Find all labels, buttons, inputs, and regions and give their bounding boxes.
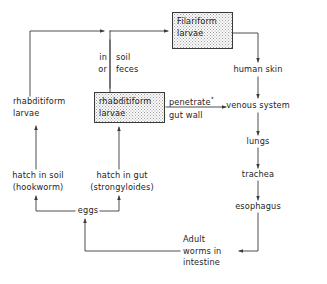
node-rhabditiform-larvae-boxed: rhabditiform larvae xyxy=(94,92,165,123)
edge-label-penetrate: penetrate* xyxy=(169,93,214,108)
edge-label-gut-wall: gut wall xyxy=(169,110,203,122)
node-adult-worms-in-intestine: Adult worms in intestine xyxy=(183,234,243,269)
edge-adult-worms-to-eggs xyxy=(85,219,180,251)
edge-eggs-to-hatch-in-gut xyxy=(100,196,119,211)
node-hatch-in-soil: hatch in soil (hookworm) xyxy=(3,170,73,193)
node-filariform-larvae: Filariform larvae xyxy=(172,12,233,49)
node-rhabditiform-larvae-plain: rhabditiform larvae xyxy=(13,96,93,119)
life-cycle-diagram: Filariform larvae rhabditiform larvae rh… xyxy=(0,0,327,284)
edge-label-penetrate-text: penetrate xyxy=(169,97,211,107)
edge-label-soil-feces: soil feces xyxy=(116,52,154,75)
edge-label-in-or: in or xyxy=(93,52,107,75)
node-human-skin: human skin xyxy=(218,64,298,76)
node-esophagus: esophagus xyxy=(223,201,293,213)
edge-eggs-to-hatch-in-soil xyxy=(36,196,75,211)
edge-label-penetrate-marker: * xyxy=(211,95,214,102)
node-trachea: trachea xyxy=(228,169,288,181)
node-venous-system: venous system xyxy=(213,100,303,112)
node-lungs: lungs xyxy=(228,136,288,148)
node-hatch-in-gut: hatch in gut (strongyloides) xyxy=(82,170,162,193)
edge-filariform-to-human-skin xyxy=(233,33,258,62)
node-eggs: eggs xyxy=(75,205,101,217)
